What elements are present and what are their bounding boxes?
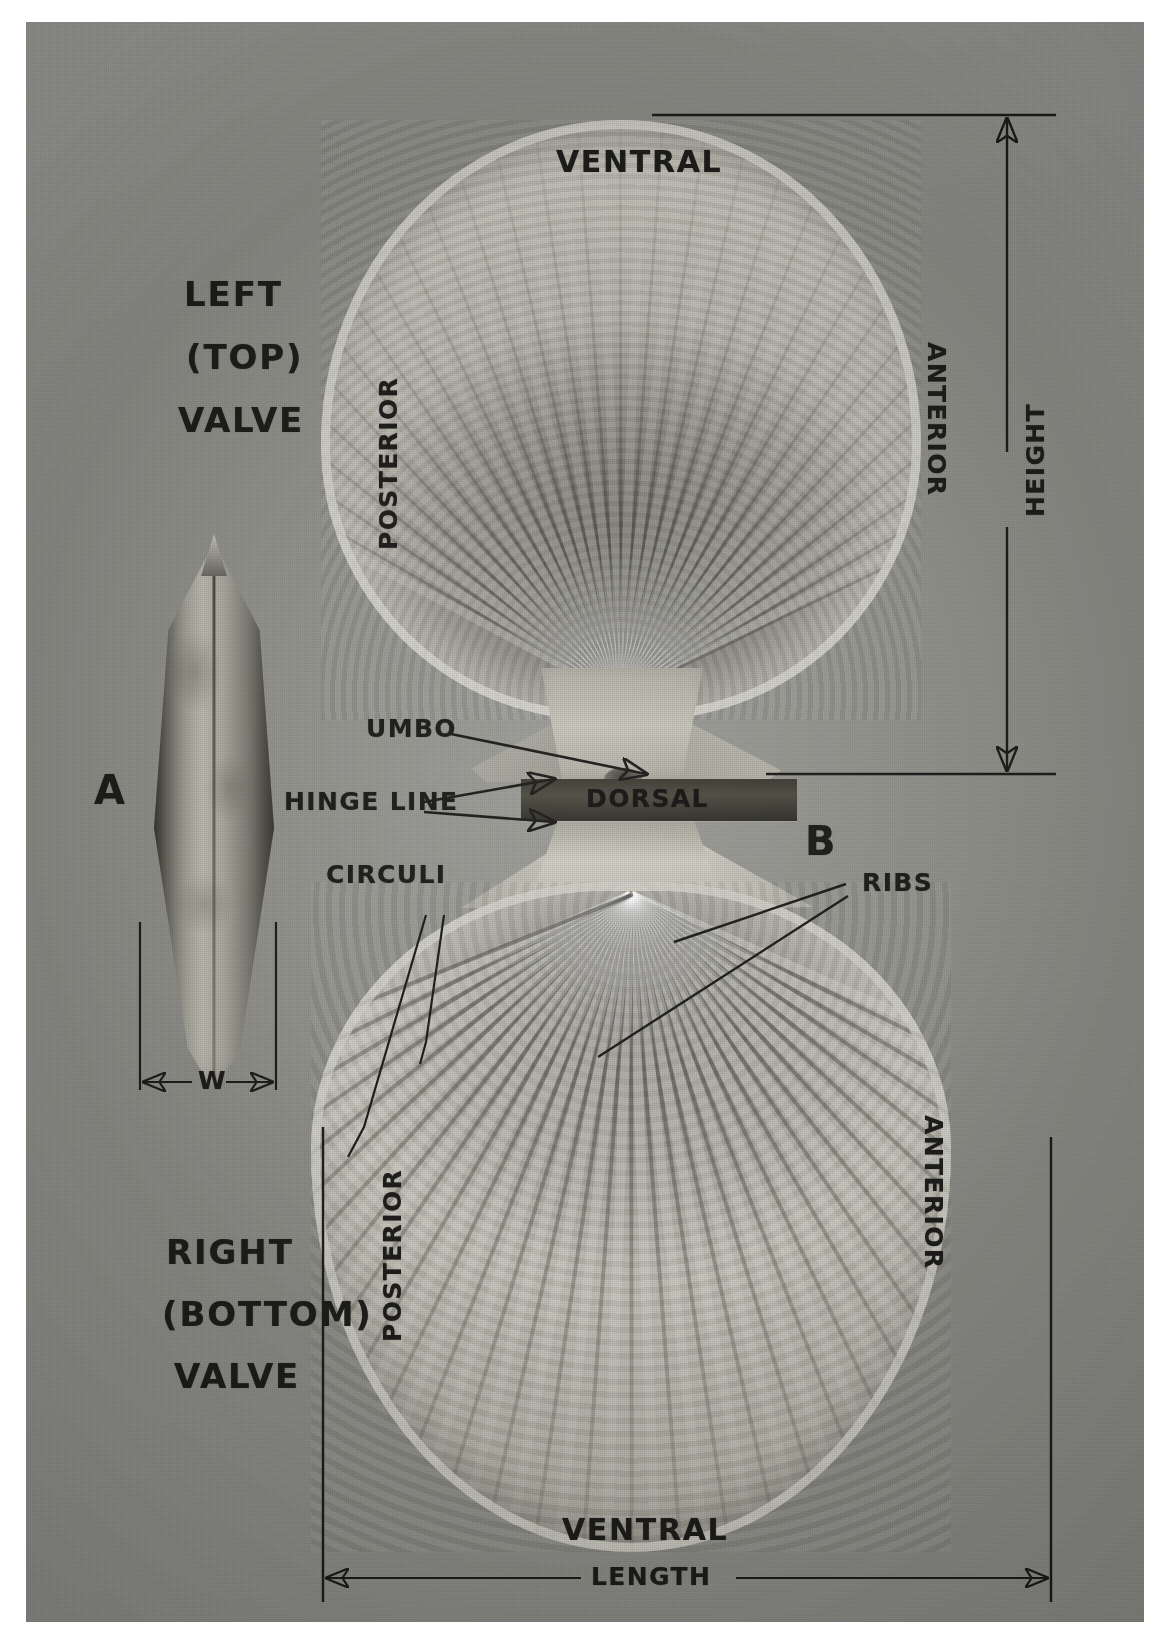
ribs-label: RIBS (862, 868, 933, 897)
anterior-label-bottom: ANTERIOR (919, 1115, 948, 1269)
height-measurement-label: HEIGHT (1021, 403, 1050, 517)
right-bottom-valve-shell (311, 820, 951, 1560)
specimen-b-label: B (805, 818, 838, 864)
hinge-line-label: HINGE LINE (284, 787, 458, 816)
side-view-valve-seam (213, 559, 216, 1076)
specimen-a-label: A (94, 767, 127, 813)
posterior-label-bottom: POSTERIOR (378, 1169, 407, 1342)
length-measurement-label: LENGTH (591, 1562, 711, 1591)
left-top-valve-shell (321, 120, 921, 780)
side-view-umbo-tip (201, 534, 227, 576)
ventral-label-top: VENTRAL (556, 144, 722, 179)
photographic-print: LEFT (TOP) VALVE RIGHT (BOTTOM) VALVE A … (26, 22, 1144, 1622)
right-valve-caption-line2: (BOTTOM) (162, 1294, 373, 1334)
dorsal-label: DORSAL (586, 784, 709, 813)
left-valve-caption-line2: (TOP) (186, 337, 303, 377)
right-valve-caption-line1: RIGHT (166, 1232, 294, 1272)
right-valve-caption-line3: VALVE (174, 1356, 300, 1396)
posterior-label-top: POSTERIOR (374, 377, 403, 550)
left-valve-caption-line1: LEFT (184, 274, 283, 314)
umbo-label: UMBO (366, 714, 457, 743)
ventral-label-bottom: VENTRAL (562, 1512, 728, 1547)
figure-plate: LEFT (TOP) VALVE RIGHT (BOTTOM) VALVE A … (0, 0, 1166, 1644)
specimen-a-side-view-shell (154, 542, 274, 1092)
left-valve-caption-line3: VALVE (178, 400, 304, 440)
circuli-label: CIRCULI (326, 860, 446, 889)
width-measurement-label: W (198, 1066, 227, 1095)
anterior-label-top: ANTERIOR (922, 342, 951, 496)
